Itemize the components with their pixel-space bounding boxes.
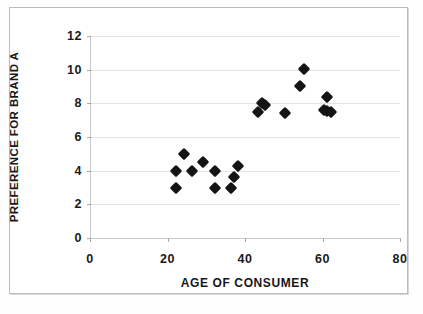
y-tick-label-10: 10 — [67, 63, 82, 77]
x-axis-line: 020406080 — [90, 238, 400, 239]
y-tick-label-8: 8 — [75, 96, 82, 110]
plot-area: 024681012 — [90, 36, 400, 238]
y-tick-label-12: 12 — [67, 29, 82, 43]
data-point — [224, 181, 237, 194]
gridline-y-8 — [91, 103, 400, 104]
data-point — [178, 147, 191, 160]
y-tick-12 — [87, 36, 91, 37]
data-point — [209, 164, 222, 177]
data-point — [321, 90, 334, 103]
y-tick-6 — [87, 137, 91, 138]
x-tick-60 — [323, 238, 324, 242]
data-point — [170, 181, 183, 194]
y-axis-title: PREFERENCE FOR BRAND A — [8, 36, 20, 238]
x-axis-title: AGE OF CONSUMER — [90, 276, 400, 290]
y-tick-label-4: 4 — [75, 164, 82, 178]
x-tick-40 — [245, 238, 246, 242]
gridline-y-10 — [91, 70, 400, 71]
data-point — [278, 107, 291, 120]
figure-frame: 024681012 020406080 AGE OF CONSUMER PREF… — [9, 7, 408, 294]
gridline-y-6 — [91, 137, 400, 138]
gridline-y-2 — [91, 204, 400, 205]
x-tick-0 — [90, 238, 91, 242]
y-tick-4 — [87, 171, 91, 172]
data-point — [170, 164, 183, 177]
gridline-y-4 — [91, 171, 400, 172]
data-point — [209, 181, 222, 194]
data-point — [197, 156, 210, 169]
x-tick-label-0: 0 — [86, 252, 93, 266]
y-tick-label-0: 0 — [75, 231, 82, 245]
data-point — [294, 79, 307, 92]
y-tick-10 — [87, 70, 91, 71]
gridline-y-12 — [91, 36, 400, 37]
data-point — [185, 164, 198, 177]
y-tick-8 — [87, 103, 91, 104]
y-tick-label-6: 6 — [75, 130, 82, 144]
x-tick-20 — [168, 238, 169, 242]
x-tick-label-80: 80 — [393, 252, 408, 266]
figure-page: 024681012 020406080 AGE OF CONSUMER PREF… — [0, 0, 423, 314]
x-tick-label-20: 20 — [160, 252, 175, 266]
x-tick-label-40: 40 — [238, 252, 253, 266]
y-tick-label-2: 2 — [75, 197, 82, 211]
data-point — [298, 62, 311, 75]
x-tick-label-60: 60 — [315, 252, 330, 266]
y-tick-2 — [87, 204, 91, 205]
x-tick-80 — [400, 238, 401, 242]
